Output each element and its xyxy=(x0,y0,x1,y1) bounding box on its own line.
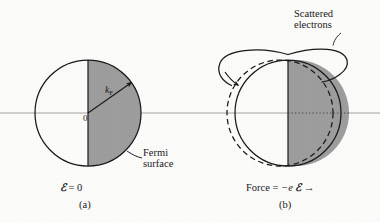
panel-b-annotation-line-2: electrons xyxy=(294,19,333,30)
panel-b-caption: (b) xyxy=(279,199,291,210)
panel-a-annotation-line-2: surface xyxy=(143,158,173,169)
panel-a-annotation-line-1: Fermi xyxy=(143,147,173,158)
panel-b-scattered-electrons-annotation: Scattered electrons xyxy=(294,8,333,31)
figure-vector-graphics xyxy=(0,0,380,222)
panel-a-field-label: ℰ = 0 xyxy=(60,182,82,193)
panel-b-force-prefix: Force = xyxy=(246,182,281,193)
panel-a-kf-vector-label: kF xyxy=(105,85,113,96)
panel-b-group xyxy=(219,33,350,166)
panel-b-scattered-electrons-leader-line xyxy=(333,33,341,46)
panel-a-fermi-surface-annotation: Fermi surface xyxy=(143,147,173,170)
panel-b-force-charge: −e xyxy=(281,182,293,193)
panel-b-annotation-line-1: Scattered xyxy=(294,8,333,19)
panel-a-origin-label: 0 xyxy=(83,114,88,124)
panel-a-fermi-surface-leader-line xyxy=(127,151,142,158)
panel-a-kf-subscript: F xyxy=(109,89,113,96)
panel-b-force-direction-arrow-icon: → xyxy=(304,181,314,193)
panel-a-field-equals-zero: = 0 xyxy=(66,182,82,193)
panel-a-caption: (a) xyxy=(79,199,91,210)
figure-fermi-surface-displacement: 0 kF ℰ = 0 Fermi surface (a) Scattered e… xyxy=(0,0,380,222)
panel-a-field-value: 0 xyxy=(77,182,82,193)
panel-b-force-field-symbol: ℰ xyxy=(295,182,301,193)
panel-b-force-label: Force = −eℰ→ xyxy=(246,182,314,194)
